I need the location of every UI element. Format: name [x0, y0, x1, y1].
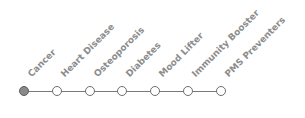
node-cancer[interactable] — [19, 86, 29, 96]
node-mood-lifter[interactable] — [150, 86, 160, 96]
node-heart-disease[interactable] — [52, 86, 62, 96]
label-heart-disease[interactable]: Heart Disease — [59, 22, 116, 79]
node-diabetes[interactable] — [117, 86, 127, 96]
node-pms-preventers[interactable] — [216, 86, 226, 96]
node-osteoporosis[interactable] — [85, 86, 95, 96]
label-pms-preventers[interactable]: PMS Preventers — [223, 15, 287, 79]
node-immunity-booster[interactable] — [183, 86, 193, 96]
label-cancer[interactable]: Cancer — [26, 47, 58, 79]
